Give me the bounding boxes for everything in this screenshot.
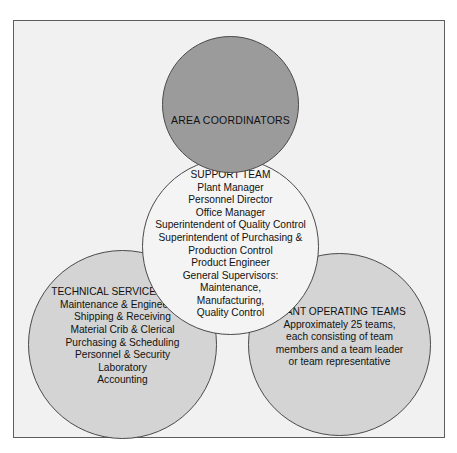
circle-area-coordinators-text: AREA COORDINATORS — [171, 114, 290, 127]
circle-support-team[interactable]: SUPPORT TEAM Plant Manager Personnel Dir… — [142, 158, 319, 335]
circle-support-team-text: SUPPORT TEAM Plant Manager Personnel Dir… — [143, 169, 318, 320]
circle-area-coordinators[interactable]: AREA COORDINATORS — [162, 36, 299, 173]
organization-diagram: TECHNICAL SERVICE TEAMS Maintenance & En… — [0, 0, 457, 453]
